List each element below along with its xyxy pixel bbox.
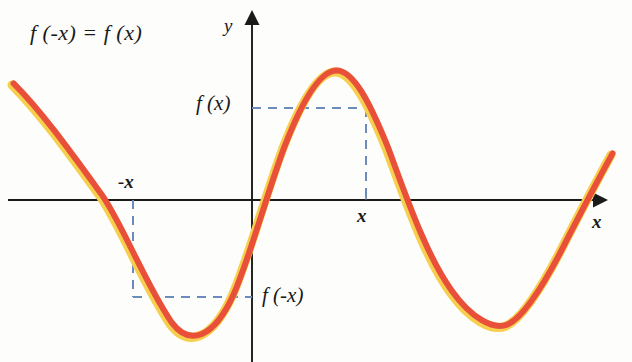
guide-lines (133, 108, 366, 297)
diagram-canvas (0, 0, 632, 362)
x-axis-arrowhead (593, 193, 608, 208)
x-axis-label: x (592, 212, 602, 231)
neg-x-tick-label: -x (118, 172, 134, 191)
function-curve (12, 70, 613, 337)
formula-label: f (-x) = f (x) (30, 22, 142, 44)
fx-value-label: f (x) (196, 93, 230, 114)
even-function-diagram: f (-x) = f (x) y x f (x) f (-x) -x x (0, 0, 632, 362)
x-tick-label: x (357, 206, 367, 225)
y-axis-arrowhead (245, 10, 260, 25)
curve-highlight-stroke (12, 72, 611, 337)
f-neg-x-value-label: f (-x) (262, 285, 303, 306)
y-axis (245, 10, 260, 362)
y-axis-label: y (224, 16, 232, 35)
